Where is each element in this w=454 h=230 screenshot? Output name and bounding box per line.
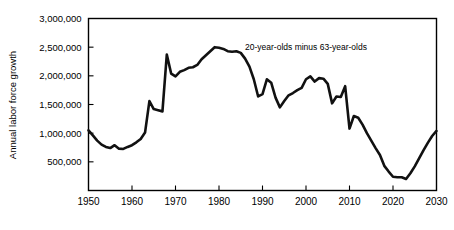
x-tick-label: 1970 xyxy=(164,196,187,207)
y-axis-title-group: Annual labor force growth xyxy=(7,51,18,159)
x-tick-label: 1960 xyxy=(121,196,144,207)
labor-force-growth-line-chart: Annual labor force growth 500,0001,000,0… xyxy=(0,0,454,230)
chart-container: Annual labor force growth 500,0001,000,0… xyxy=(0,0,454,230)
data-series-line xyxy=(89,47,437,179)
x-tick-label: 1950 xyxy=(77,196,100,207)
x-tick-label: 2010 xyxy=(338,196,361,207)
y-tick-label: 2,500,000 xyxy=(39,42,81,53)
y-axis-tick-labels: 500,0001,000,0001,500,0002,000,0002,500,… xyxy=(39,13,81,167)
y-tick-label: 2,000,000 xyxy=(39,70,81,81)
x-tick-label: 1990 xyxy=(251,196,274,207)
x-tick-label: 2000 xyxy=(295,196,318,207)
y-tick-label: 1,500,000 xyxy=(39,99,81,110)
y-tick-label: 1,000,000 xyxy=(39,128,81,139)
chart-annotations: 20-year-olds minus 63-year-olds xyxy=(245,42,367,52)
y-tick-label: 3,000,000 xyxy=(39,13,81,24)
x-tick-label: 2020 xyxy=(382,196,405,207)
x-axis-tick-labels: 195019601970198019902000201020202030 xyxy=(77,196,448,207)
series-annotation-label: 20-year-olds minus 63-year-olds xyxy=(245,42,367,52)
y-tick-label: 500,000 xyxy=(47,156,81,167)
y-axis-title: Annual labor force growth xyxy=(7,51,18,159)
x-tick-label: 2030 xyxy=(425,196,448,207)
x-tick-label: 1980 xyxy=(208,196,231,207)
